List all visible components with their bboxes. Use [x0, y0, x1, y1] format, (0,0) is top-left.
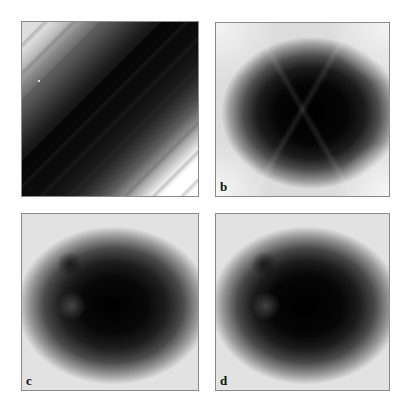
panel-a-stripes [22, 22, 198, 196]
panel-c-image: c [21, 213, 199, 391]
panel-c-light-lobe [57, 292, 87, 320]
panel-d-light-lobe [251, 292, 281, 320]
panel-d-dark-lobe [250, 252, 278, 276]
panel-a-label: a [26, 180, 33, 193]
panel-a-speck [38, 80, 40, 82]
panel-c-label: c [26, 374, 32, 387]
panel-d-image: d [215, 213, 390, 391]
panel-a-image: a [21, 21, 199, 197]
panel-d-label: d [220, 374, 227, 387]
panel-c-dark-lobe [56, 252, 84, 276]
panel-b-image: b [215, 22, 390, 197]
panel-b-corners [216, 23, 389, 196]
panel-b-label: b [220, 180, 227, 193]
